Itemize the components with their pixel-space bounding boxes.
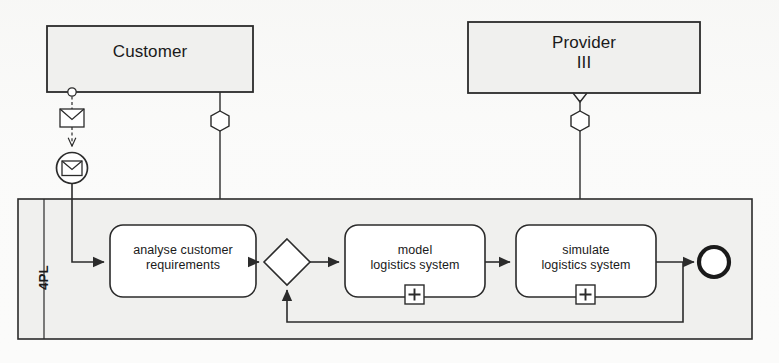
pool-customer-title: Customer	[47, 42, 253, 62]
task-simulate-label: simulate logistics system	[516, 243, 656, 273]
end-event[interactable]	[699, 247, 729, 277]
task-analyse-label: analyse customer requirements	[110, 243, 256, 273]
end-event-circle	[699, 247, 729, 277]
task-model-label: model logistics system	[345, 243, 485, 273]
pool-4pl-lane-label: 4PL	[36, 265, 51, 290]
bpmn-diagram-canvas: Customer Provider III 4PL analyse custom…	[0, 0, 779, 363]
pool-provider-title: Provider III	[468, 33, 700, 73]
envelope-icon	[62, 161, 82, 176]
association-provider-to-pool[interactable]	[571, 93, 589, 199]
hexagon-connector-customer	[211, 111, 229, 131]
message-flow-customer-to-start[interactable]	[60, 88, 84, 146]
association-customer-to-pool[interactable]	[211, 92, 229, 199]
message-start-event[interactable]	[57, 153, 88, 184]
hexagon-connector-provider	[571, 111, 589, 131]
message-flow-source-circle	[68, 88, 76, 96]
message-envelope-icon	[60, 109, 84, 127]
